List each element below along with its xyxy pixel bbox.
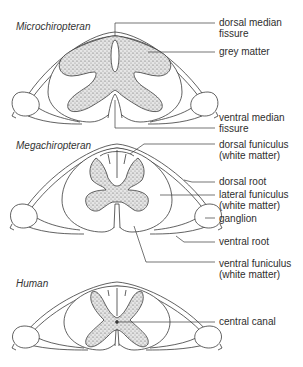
ganglion-right	[195, 326, 222, 348]
label-line: ventral root	[219, 236, 269, 247]
label-line: fissure	[219, 28, 282, 39]
label-line: lateral funiculus	[219, 189, 288, 200]
label-line: (white matter)	[219, 150, 288, 161]
label-ganglion: ganglion	[219, 213, 257, 224]
label-line: ganglion	[219, 213, 257, 224]
ganglion-left	[12, 326, 39, 348]
central-canal	[116, 321, 119, 324]
label-line: ventral median	[219, 112, 285, 123]
title-human: Human	[16, 278, 48, 289]
title-microchiropteran: Microchiropteran	[16, 21, 90, 32]
label-dorsal-median-fissure: dorsal median fissure	[219, 17, 282, 39]
label-line: grey matter	[219, 46, 270, 57]
ganglion-left	[10, 204, 37, 228]
megachiropteran-cross-section	[10, 144, 222, 234]
label-line: ventral funiculus	[219, 258, 291, 269]
title-megachiropteran: Megachiropteran	[16, 140, 91, 151]
ventral-median-fissure	[115, 330, 119, 346]
label-ventral-median-fissure: ventral median fissure	[219, 112, 285, 134]
ganglion-right	[191, 92, 218, 116]
label-ventral-root: ventral root	[219, 236, 269, 247]
dorsal-median-fissure	[111, 40, 119, 72]
label-line: (white matter)	[219, 200, 288, 211]
ventral-median-fissure	[114, 204, 120, 228]
label-lateral-funiculus: lateral funiculus (white matter)	[219, 189, 288, 211]
label-line: central canal	[219, 316, 276, 327]
human-cross-section	[12, 282, 222, 350]
label-line: fissure	[219, 123, 285, 134]
label-line: (white matter)	[219, 269, 291, 280]
label-line: dorsal root	[219, 176, 266, 187]
label-central-canal: central canal	[219, 316, 276, 327]
ganglion-left	[12, 92, 39, 116]
label-dorsal-root: dorsal root	[219, 176, 266, 187]
label-ventral-funiculus: ventral funiculus (white matter)	[219, 258, 291, 280]
label-line: dorsal median	[219, 17, 282, 28]
label-grey-matter: grey matter	[219, 46, 270, 57]
label-dorsal-funiculus: dorsal funiculus (white matter)	[219, 139, 288, 161]
ganglion-right	[195, 204, 222, 228]
label-line: dorsal funiculus	[219, 139, 288, 150]
